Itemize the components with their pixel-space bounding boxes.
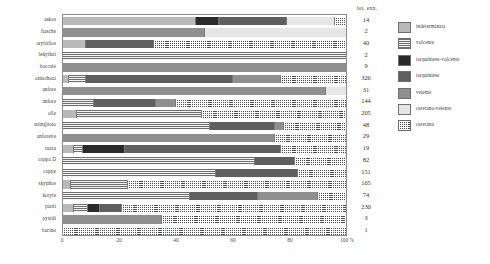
- bar-segment-veiente: [258, 192, 317, 200]
- bar-segment-veiente: [63, 63, 346, 71]
- legend-swatch-tarquiniese: [398, 71, 411, 82]
- row-total-value: 3: [352, 215, 380, 221]
- row-total-value: 151: [352, 169, 380, 175]
- bar-segment-volcente: [63, 122, 210, 130]
- bar-segment-ceretana: [275, 134, 346, 142]
- x-tick-label: 60: [230, 237, 235, 243]
- bar-row: [63, 87, 346, 95]
- bar-segment-veiente: [63, 28, 205, 36]
- x-tick-label: 0: [61, 237, 64, 243]
- row-total-value: 326: [352, 75, 380, 81]
- category-label: anforette: [37, 134, 56, 139]
- bar-row: [63, 17, 346, 25]
- bar-row: [63, 180, 346, 188]
- legend-label: veiente: [416, 90, 431, 95]
- bar-segment-ceretana: [122, 204, 346, 212]
- bar-segment-ceretana: [335, 17, 346, 25]
- bar-row: [63, 75, 346, 83]
- legend-item: ceretana: [398, 118, 490, 134]
- legend-swatch-ceretano-veiente: [398, 104, 411, 115]
- bar-segment-ceretana: [281, 75, 346, 83]
- bar-segment-volcente: [74, 204, 88, 212]
- bar-segment-ceretano-veiente: [326, 87, 346, 95]
- bar-segment-veiente: [63, 87, 326, 95]
- bar-row: [63, 157, 346, 165]
- chart-legend: indeterminatavolcentetarquiniese-volcent…: [398, 20, 490, 135]
- bar-segment-veiente: [233, 75, 281, 83]
- row-total-value: 40: [352, 40, 380, 46]
- bar-row: [63, 40, 346, 48]
- bar-segment-tarquiniese-volcente: [196, 17, 219, 25]
- stacked-bar-chart: tot. exx. askosfiaschearyballoslekythoib…: [0, 0, 490, 264]
- row-total-value: 29: [352, 133, 380, 139]
- bar-row: [63, 192, 346, 200]
- category-label: piatti: [45, 204, 56, 209]
- category-label: tazza: [45, 146, 56, 151]
- bar-segment-ceretana: [281, 145, 346, 153]
- category-label: askos: [44, 17, 56, 22]
- legend-item: veiente: [398, 86, 490, 102]
- bar-segment-tarquiniese: [125, 145, 281, 153]
- bar-segment-ceretana: [202, 110, 346, 118]
- legend-item: ceretano-veiente: [398, 102, 490, 118]
- bar-segment-veiente: [63, 134, 275, 142]
- bar-segment-indeterminata: [63, 40, 86, 48]
- category-label: anfore: [42, 87, 56, 92]
- row-total-value: 1: [352, 227, 380, 233]
- bar-segment-tarquiniese: [94, 99, 156, 107]
- x-tick-label: 20: [116, 237, 121, 243]
- x-tick-label: 80: [287, 237, 292, 243]
- x-tick-label: 100 %: [340, 237, 354, 243]
- bar-segment-ceretano-veiente: [287, 17, 335, 25]
- bar-segment-ceretana: [176, 99, 346, 107]
- bar-segment-volcente: [71, 180, 128, 188]
- category-label: boccale: [40, 64, 56, 69]
- row-total-value: 230: [352, 204, 380, 210]
- bar-row: [63, 110, 346, 118]
- legend-swatch-indeterminata: [398, 22, 411, 33]
- legend-swatch-tarquiniese-volcente: [398, 55, 411, 66]
- category-label: aryballos: [36, 41, 56, 46]
- bar-row: [63, 63, 346, 71]
- bar-segment-ceretana: [298, 169, 346, 177]
- bar-segment-indeterminata: [63, 17, 196, 25]
- legend-item: indeterminata: [398, 20, 490, 36]
- category-label: olle: [48, 111, 56, 116]
- bar-row: [63, 215, 346, 223]
- legend-item: tarquiniese: [398, 69, 490, 85]
- bar-segment-indeterminata: [63, 145, 74, 153]
- bar-segment-volcente: [63, 52, 346, 60]
- bar-row: [63, 134, 346, 142]
- category-label: pyxidi: [42, 216, 56, 221]
- legend-swatch-volcente: [398, 38, 411, 49]
- bar-row: [63, 169, 346, 177]
- bar-row: [63, 145, 346, 153]
- category-label: bacino: [42, 228, 56, 233]
- x-axis-ticks: 020406080100 %: [62, 237, 347, 249]
- bar-segment-veiente: [63, 215, 162, 223]
- legend-label: tarquiniese: [416, 73, 439, 78]
- bar-row: [63, 204, 346, 212]
- row-total-value: 205: [352, 110, 380, 116]
- x-tick-label: 40: [173, 237, 178, 243]
- bar-segment-veiente: [275, 122, 283, 130]
- legend-label: tarquiniese-volcente: [416, 57, 459, 62]
- row-total-value: 48: [352, 122, 380, 128]
- bar-segment-tarquiniese: [255, 157, 295, 165]
- row-total-value: 144: [352, 98, 380, 104]
- bar-segment-tarquiniese-volcente: [83, 145, 125, 153]
- bar-segment-volcente: [63, 169, 216, 177]
- bar-segment-indeterminata: [63, 110, 77, 118]
- bar-segment-volcente: [63, 157, 255, 165]
- bar-segment-veiente: [156, 99, 176, 107]
- category-label: attingitoio: [34, 122, 56, 127]
- legend-swatch-ceretana: [398, 120, 411, 131]
- row-total-value: 2: [352, 52, 380, 58]
- row-total-value: 74: [352, 192, 380, 198]
- bar-segment-indeterminata: [63, 180, 71, 188]
- bar-segment-ceretana: [284, 122, 346, 130]
- category-label: coppa D: [38, 157, 56, 162]
- bar-segment-tarquiniese: [86, 40, 154, 48]
- bar-segment-tarquiniese: [190, 192, 258, 200]
- plot-area: [62, 14, 347, 236]
